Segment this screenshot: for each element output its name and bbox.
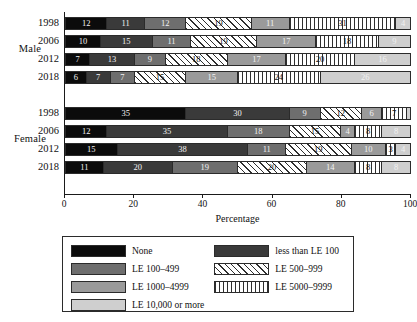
bar-segment-value: 18 [192,55,201,64]
bar-segment-value: 9 [148,55,152,64]
bar-segment: 20 [238,162,307,173]
legend-item[interactable]: less than LE 100 [214,242,345,259]
legend-swatch [214,281,269,293]
bar-row-label: 2006 [38,34,59,48]
bar-segment: 18 [228,126,290,137]
legend-item[interactable]: LE 500–999 [214,260,345,277]
bar-segment-value: 7 [96,73,100,82]
legend-item[interactable]: LE 10,000 or more [71,296,204,313]
bar-row: 2012153811191034 [64,143,411,156]
bar-segment: 19 [191,36,257,47]
legend-item[interactable]: None [71,242,204,259]
bar-segment: 10 [352,144,386,155]
bar-segment-value: 7 [120,73,124,82]
bar-segment: 19 [186,18,251,29]
bar-segment: 9 [135,54,166,65]
bar-segment: 12 [66,18,107,29]
bar-segment-value: 19 [214,19,223,28]
bar-segment: 11 [107,18,145,29]
bar-segment-value: 9 [302,109,306,118]
bar-segment: 19 [173,162,238,173]
bar-segment-value: 11 [167,37,175,46]
bar-segment: 6 [362,108,383,119]
bar-segment: 15 [101,36,153,47]
legend-item[interactable]: LE 100–499 [71,260,204,277]
bar-segment-value: 10 [364,145,373,154]
bar-segment-value: 15 [122,37,131,46]
bar-segment: 17 [257,36,316,47]
bar-segment-value: 4 [401,19,405,28]
legend-item[interactable]: LE 5000–9999 [214,278,345,295]
legend-swatch [214,245,269,257]
bar-segment-value: 19 [219,37,228,46]
stacked-bar: 153811191034 [65,143,411,156]
bar-row-label: 1998 [38,106,59,120]
bar-segment: 24 [238,72,321,83]
x-axis-tick-label: 80 [336,199,346,209]
bar-segment: 14 [307,162,355,173]
bar-segment-value: 30 [233,109,242,118]
bar-segment-value: 15 [156,73,165,82]
bar-segment: 8 [382,162,410,173]
bar-segment: 31 [290,18,397,29]
x-axis-tick-label: 40 [198,199,208,209]
bar-segment: 15 [186,72,238,83]
bar-segment-value: 18 [254,127,263,136]
bar-segment: 12 [321,108,362,119]
bar-segment: 8 [382,126,410,137]
bar-segment-value: 13 [108,55,117,64]
bar-segment-value: 11 [266,19,274,28]
x-axis-tick-label: 60 [267,199,277,209]
bar-segment-value: 7 [75,55,79,64]
legend-item[interactable]: LE 1000–4999 [71,278,204,295]
bar-segment-value: 35 [163,127,172,136]
bar-segment: 9 [379,36,410,47]
bar-segment-value: 8 [366,127,370,136]
bar-segment: 6 [66,72,87,83]
bar-segment: 7 [382,108,406,119]
bar-segment: 11 [252,18,290,29]
bar-segment-value: 4 [401,145,405,154]
bar-segment: 19 [286,144,351,155]
x-axis-tick-label: 0 [62,199,67,209]
bar-segment-value: 15 [87,145,96,154]
bar-row-label: 2012 [38,142,59,156]
bar-segment-value: 12 [82,19,91,28]
bar-segment: 7 [111,72,135,83]
bar-segment: 4 [341,126,355,137]
bar-segment: 15 [290,126,342,137]
bar-segment-value: 17 [282,37,291,46]
bar-segment-value: 17 [252,55,261,64]
legend-swatch [71,245,126,257]
x-axis-tick [64,194,65,198]
bar-row: 200612351815488 [64,125,411,138]
bar-segment-value: 4 [345,127,349,136]
bar-segment: 18 [316,36,379,47]
bar-segment: 10 [66,36,101,47]
bar-segment-value: 6 [74,73,78,82]
bar-segment: 38 [118,144,249,155]
bar-row: 19983530912671 [64,107,411,120]
bar-segment: 12 [145,18,186,29]
legend-swatch [71,263,126,275]
stacked-bar: 1015111917189 [65,35,411,48]
legend-grid: Noneless than LE 100LE 100–499LE 500–999… [71,242,345,313]
bar-segment: 35 [66,108,186,119]
bar-segment-value: 8 [394,163,398,172]
bar-segment: 20 [286,54,355,65]
bar-row: 20061015111917189 [64,35,411,48]
x-axis-tick-label: 100 [403,199,417,209]
bar-segment: 11 [248,144,286,155]
bar-segment: 4 [396,18,410,29]
bar-segment-value: 20 [268,163,277,172]
bar-segment: 3 [386,144,396,155]
legend-swatch [71,281,126,293]
x-axis-tick-label: 20 [128,199,138,209]
bar-segment-value: 20 [133,163,142,172]
x-axis-tick [202,194,203,198]
legend-swatch [214,263,269,275]
bar-segment-value: 18 [343,37,352,46]
bar-segment: 17 [228,54,286,65]
bar-segment: 26 [321,72,410,83]
bar-segment-value: 10 [79,37,88,46]
